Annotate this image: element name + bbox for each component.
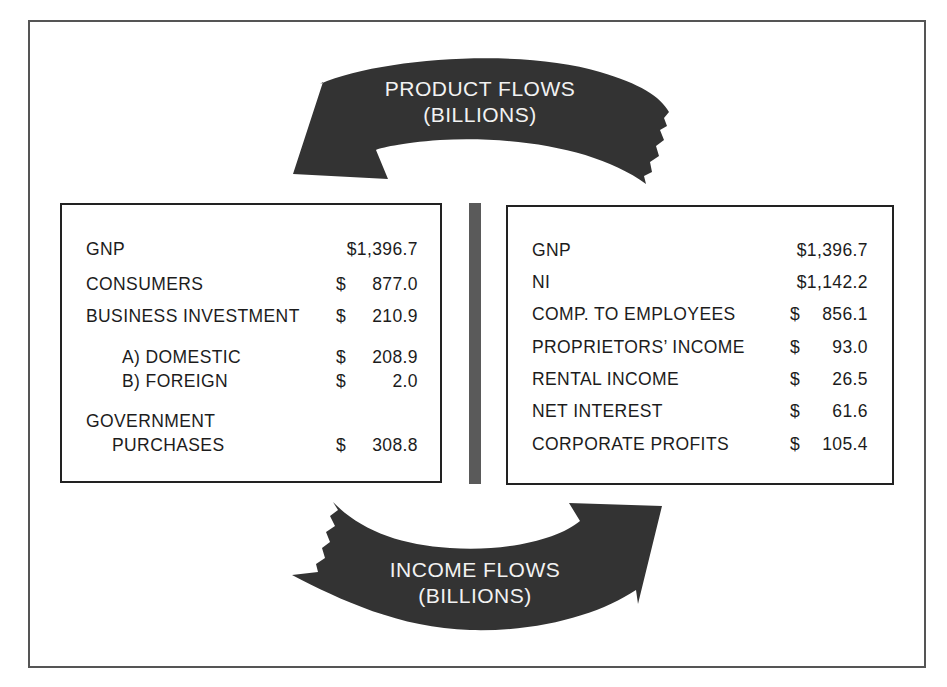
income-flows-label: INCOME FLOWS (BILLIONS): [345, 557, 605, 609]
row-currency: $: [336, 306, 346, 327]
row-currency: $: [790, 401, 800, 422]
row-currency: $: [790, 304, 800, 325]
income-flows-unit: (BILLIONS): [345, 583, 605, 609]
row-label: GNP: [86, 239, 125, 260]
row-label: BUSINESS INVESTMENT: [86, 306, 300, 327]
row-amount: $1,396.7: [797, 240, 868, 261]
income-side-panel: GNP $1,396.7 NI $1,142.2 COMP. TO EMPLOY…: [506, 205, 894, 485]
row-amount: 26.5: [832, 369, 868, 390]
row-label: GNP: [532, 240, 571, 261]
product-flows-title: PRODUCT FLOWS: [350, 76, 610, 102]
row-amount: 93.0: [832, 337, 868, 358]
row-label: CORPORATE PROFITS: [532, 434, 729, 455]
row-label: B) FOREIGN: [122, 371, 228, 392]
row-amount: 2.0: [392, 371, 418, 392]
row-label: PURCHASES: [112, 435, 225, 456]
row-label: PROPRIETORS’ INCOME: [532, 337, 745, 358]
row-amount: 208.9: [372, 347, 418, 368]
row-amount: 61.6: [832, 401, 868, 422]
row-currency: $: [336, 435, 346, 456]
row-label: A) DOMESTIC: [122, 347, 241, 368]
row-label: COMP. TO EMPLOYEES: [532, 304, 736, 325]
row-label: CONSUMERS: [86, 274, 203, 295]
row-amount: $1,396.7: [347, 239, 418, 260]
row-currency: $: [790, 434, 800, 455]
row-currency: $: [790, 337, 800, 358]
row-label: NI: [532, 272, 550, 293]
income-flows-title: INCOME FLOWS: [345, 557, 605, 583]
row-currency: $: [336, 347, 346, 368]
row-amount: 308.8: [372, 435, 418, 456]
row-amount: 105.4: [822, 434, 868, 455]
row-label: NET INTEREST: [532, 401, 663, 422]
row-currency: $: [790, 369, 800, 390]
product-flows-unit: (BILLIONS): [350, 102, 610, 128]
row-amount: 856.1: [822, 304, 868, 325]
row-currency: $: [336, 371, 346, 392]
center-divider: [469, 203, 481, 484]
row-amount: 877.0: [372, 274, 418, 295]
row-label: RENTAL INCOME: [532, 369, 679, 390]
row-amount: $1,142.2: [797, 272, 868, 293]
row-amount: 210.9: [372, 306, 418, 327]
product-flows-label: PRODUCT FLOWS (BILLIONS): [350, 76, 610, 128]
product-side-panel: GNP $1,396.7 CONSUMERS $ 877.0 BUSINESS …: [60, 203, 442, 483]
row-currency: $: [336, 274, 346, 295]
row-label: GOVERNMENT: [86, 411, 215, 432]
